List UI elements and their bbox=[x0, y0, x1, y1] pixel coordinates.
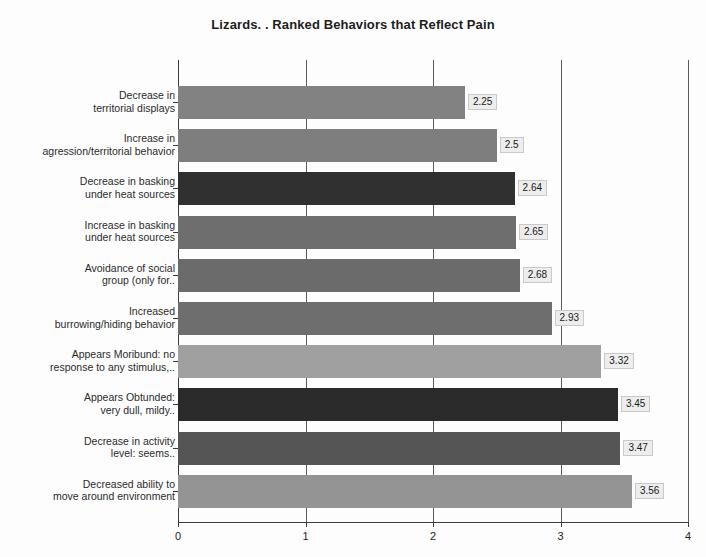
x-tick-0 bbox=[178, 522, 179, 527]
category-label: Appears Moribund: noresponse to any stim… bbox=[15, 348, 175, 373]
category-label-line: Decreased ability to bbox=[15, 478, 175, 491]
x-tick-3 bbox=[561, 522, 562, 527]
x-tick-label-4: 4 bbox=[685, 530, 691, 542]
category-label: Decreased ability tomove around environm… bbox=[15, 478, 175, 503]
x-tick-label-1: 1 bbox=[302, 530, 308, 542]
bar-row: 2.68 bbox=[178, 259, 688, 292]
gridline-4 bbox=[688, 60, 689, 522]
chart-container: Lizards. . Ranked Behaviors that Reflect… bbox=[0, 0, 706, 557]
category-label-line: Appears Obtunded: bbox=[15, 391, 175, 404]
category-label-line: Appears Moribund: no bbox=[15, 348, 175, 361]
x-tick-4 bbox=[688, 522, 689, 527]
category-label-line: move around environment bbox=[15, 490, 175, 503]
category-label: Increase inagression/territorial behavio… bbox=[15, 132, 175, 157]
x-tick-label-3: 3 bbox=[557, 530, 563, 542]
bar-value-label: 3.56 bbox=[635, 483, 664, 499]
bar-value-label: 3.47 bbox=[623, 440, 652, 456]
category-label: Appears Obtunded:very dull, mildy.. bbox=[15, 391, 175, 416]
category-label-line: level: seems.. bbox=[15, 447, 175, 460]
category-label-line: under heat sources bbox=[15, 188, 175, 201]
category-label-line: Increase in bbox=[15, 132, 175, 145]
bar-row: 3.45 bbox=[178, 388, 688, 421]
category-label-line: group (only for.. bbox=[15, 274, 175, 287]
chart-title: Lizards. . Ranked Behaviors that Reflect… bbox=[0, 17, 706, 32]
bar-row: 2.5 bbox=[178, 129, 688, 162]
bar-value-label: 2.68 bbox=[523, 267, 552, 283]
bar-row: 2.65 bbox=[178, 216, 688, 249]
category-label-line: response to any stimulus,.. bbox=[15, 361, 175, 374]
category-label: Decrease in activitylevel: seems.. bbox=[15, 435, 175, 460]
bar-value-label: 3.32 bbox=[604, 353, 633, 369]
bar[interactable] bbox=[178, 345, 601, 378]
category-label: Decrease interritorial displays bbox=[15, 89, 175, 114]
category-label: Increasedburrowing/hiding behavior bbox=[15, 305, 175, 330]
x-tick-2 bbox=[433, 522, 434, 527]
bar-row: 2.93 bbox=[178, 302, 688, 335]
bar[interactable] bbox=[178, 388, 618, 421]
category-label-line: under heat sources bbox=[15, 231, 175, 244]
bar[interactable] bbox=[178, 129, 497, 162]
category-label-line: Avoidance of social bbox=[15, 262, 175, 275]
bar[interactable] bbox=[178, 259, 520, 292]
category-label-line: very dull, mildy.. bbox=[15, 404, 175, 417]
x-tick-label-2: 2 bbox=[430, 530, 436, 542]
category-label-line: Decrease in basking bbox=[15, 175, 175, 188]
bar-value-label: 3.45 bbox=[621, 396, 650, 412]
bar[interactable] bbox=[178, 475, 632, 508]
bar[interactable] bbox=[178, 216, 516, 249]
category-label-line: Decrease in activity bbox=[15, 435, 175, 448]
category-label-line: agression/territorial behavior bbox=[15, 145, 175, 158]
bar-row: 3.56 bbox=[178, 475, 688, 508]
category-label-line: burrowing/hiding behavior bbox=[15, 318, 175, 331]
bar-row: 3.47 bbox=[178, 432, 688, 465]
bar-value-label: 2.93 bbox=[555, 310, 584, 326]
category-label-line: territorial displays bbox=[15, 102, 175, 115]
bar-value-label: 2.64 bbox=[518, 180, 547, 196]
bar[interactable] bbox=[178, 432, 620, 465]
category-label: Decrease in baskingunder heat sources bbox=[15, 175, 175, 200]
bar-row: 3.32 bbox=[178, 345, 688, 378]
category-label-line: Decrease in bbox=[15, 89, 175, 102]
bar[interactable] bbox=[178, 302, 552, 335]
x-tick-1 bbox=[306, 522, 307, 527]
category-label-line: Increased bbox=[15, 305, 175, 318]
bar-row: 2.25 bbox=[178, 86, 688, 119]
category-label: Increase in baskingunder heat sources bbox=[15, 219, 175, 244]
bar[interactable] bbox=[178, 172, 515, 205]
category-axis-labels: Decrease interritorial displaysIncrease … bbox=[12, 60, 175, 522]
bar-row: 2.64 bbox=[178, 172, 688, 205]
category-label: Avoidance of socialgroup (only for.. bbox=[15, 262, 175, 287]
bar-value-label: 2.65 bbox=[519, 224, 548, 240]
bar-value-label: 2.5 bbox=[500, 137, 524, 153]
category-label-line: Increase in basking bbox=[15, 219, 175, 232]
x-tick-label-0: 0 bbox=[175, 530, 181, 542]
bar-value-label: 2.25 bbox=[468, 94, 497, 110]
bar[interactable] bbox=[178, 86, 465, 119]
plot-area: 01234 2.252.52.642.652.682.933.323.453.4… bbox=[178, 60, 688, 522]
